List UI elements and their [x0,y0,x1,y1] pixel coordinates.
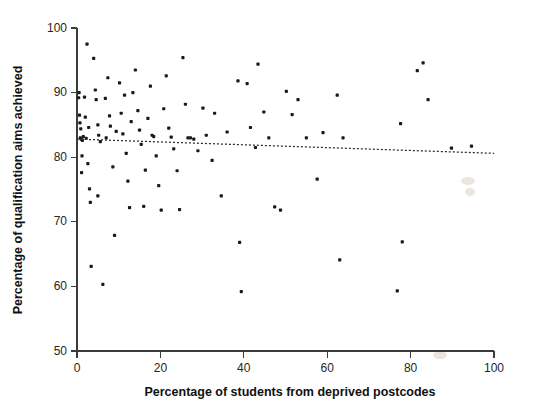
data-point [92,57,95,60]
data-point [170,136,173,139]
data-point [118,81,121,84]
data-point [96,123,99,126]
data-point [108,114,111,117]
data-point [205,134,208,137]
data-point [82,135,85,138]
data-point [321,131,324,134]
data-point [416,69,419,72]
data-point [95,98,98,101]
data-point [152,135,155,138]
x-tick-label: 60 [321,361,335,375]
data-point [220,194,223,197]
data-point [211,159,214,162]
data-point [149,85,152,88]
data-point [123,94,126,97]
data-point [125,152,128,155]
data-point [401,240,404,243]
data-point [131,91,134,94]
data-point [201,107,204,110]
data-point [157,184,160,187]
data-point [291,113,294,116]
data-point [77,96,80,99]
axes [77,28,494,351]
data-point [175,169,178,172]
data-point [140,143,143,146]
scatter-chart: 5060708090100020406080100 Percentage of … [0,0,545,412]
data-point [178,208,181,211]
data-point [85,43,88,46]
data-point [96,194,99,197]
data-point [181,56,184,59]
data-point [226,130,229,133]
data-point [238,241,241,244]
trend-line-path [77,139,494,153]
data-point [336,94,339,97]
data-point [422,61,425,64]
trend-line [77,139,494,153]
data-point [126,180,129,183]
x-tick-label: 40 [237,361,251,375]
y-tick-label: 100 [47,21,67,35]
x-tick-label: 20 [154,361,168,375]
data-point [97,134,100,137]
plot-area: 5060708090100020406080100 Percentage of … [0,0,545,412]
data-point [155,154,158,157]
data-point [78,121,81,124]
data-point [78,114,81,117]
data-point [189,136,192,139]
data-point [172,147,175,150]
data-point [470,145,473,148]
x-axis-title: Percentage of students from deprived pos… [144,385,435,399]
data-point [138,128,141,131]
data-point [134,68,137,71]
data-point [316,178,319,181]
data-point [79,127,82,130]
data-point [105,136,108,139]
data-point [84,116,87,119]
data-point [99,140,102,143]
data-point [87,126,90,129]
data-point [162,107,165,110]
data-point [427,98,430,101]
x-tick-label: 100 [484,361,504,375]
data-point [285,90,288,93]
y-tick-label: 70 [54,214,68,228]
data-point [109,125,112,128]
data-point [338,258,341,261]
data-point [128,206,131,209]
y-tick-label: 60 [54,279,68,293]
data-point [80,171,83,174]
data-point [90,265,93,268]
data-point [120,112,123,115]
y-tick-label: 90 [54,85,68,99]
data-point [146,117,149,120]
data-points [77,43,473,294]
data-point [256,63,259,66]
data-point [196,149,199,152]
data-point [254,146,257,149]
data-point [165,74,168,77]
data-point [160,209,163,212]
data-point [236,79,239,82]
data-point [130,120,133,123]
data-point [113,234,116,237]
data-point [249,126,252,129]
data-point [305,136,308,139]
y-tick-label: 50 [54,344,68,358]
data-point [94,88,97,91]
data-point [106,76,109,79]
data-point [273,205,276,208]
data-point [267,136,270,139]
axis-ticks: 5060708090100020406080100 [47,21,504,375]
data-point [88,187,91,190]
data-point [86,162,89,165]
data-point [136,109,139,112]
data-point [144,169,147,172]
data-point [111,165,114,168]
data-point [296,98,299,101]
data-point [341,136,344,139]
y-tick-label: 80 [54,150,68,164]
data-point [142,205,145,208]
x-tick-label: 80 [404,361,418,375]
data-point [262,110,265,113]
